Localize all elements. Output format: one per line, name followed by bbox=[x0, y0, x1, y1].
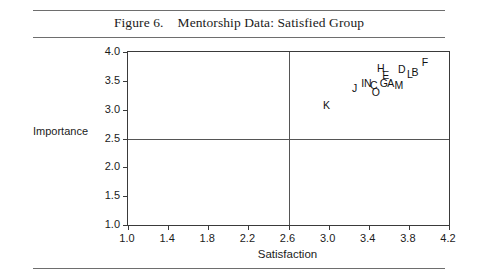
y-axis-tick-label: 4.0 bbox=[105, 45, 120, 57]
figure-bottom-rule bbox=[33, 268, 445, 269]
y-axis-tick bbox=[123, 110, 128, 111]
y-axis-tick bbox=[123, 139, 128, 140]
y-axis-tick-label: 2.5 bbox=[105, 132, 120, 144]
x-axis-tick-label: 1.4 bbox=[159, 232, 174, 244]
data-point-label: O bbox=[372, 87, 380, 98]
x-axis-tick-label: 2.6 bbox=[280, 232, 295, 244]
data-point-label: L bbox=[407, 69, 413, 80]
figure-container: Figure 6.Mentorship Data: Satisfied Grou… bbox=[0, 0, 478, 280]
y-axis-title: Importance bbox=[33, 125, 88, 137]
y-axis-tick-label: 1.5 bbox=[105, 189, 120, 201]
x-axis-title: Satisfaction bbox=[127, 248, 448, 260]
reference-line-vertical bbox=[289, 52, 290, 225]
figure-title: Mentorship Data: Satisfied Group bbox=[178, 15, 365, 30]
y-axis-tick-label: 3.5 bbox=[105, 74, 120, 86]
x-axis-tick-label: 3.0 bbox=[320, 232, 335, 244]
data-point-label: D bbox=[398, 64, 406, 75]
y-tick-label-group: 1.01.52.02.53.03.54.0 bbox=[90, 51, 120, 224]
x-axis-tick-label: 2.2 bbox=[240, 232, 255, 244]
data-point-label: N bbox=[364, 77, 372, 88]
figure-caption: Figure 6.Mentorship Data: Satisfied Grou… bbox=[0, 15, 478, 31]
y-axis-tick bbox=[123, 196, 128, 197]
y-axis-tick bbox=[123, 52, 128, 53]
figure-caption-rule bbox=[33, 37, 445, 38]
plot-area: ABCDEFGHIJKLMNO bbox=[127, 51, 450, 226]
data-point-label: M bbox=[394, 80, 403, 91]
figure-number: Figure 6. bbox=[114, 15, 164, 30]
x-axis-tick-label: 1.8 bbox=[200, 232, 215, 244]
data-point-label: G bbox=[380, 78, 388, 89]
data-point-label: J bbox=[352, 83, 357, 94]
y-axis-tick bbox=[123, 167, 128, 168]
x-tick-label-group: 1.01.41.82.22.63.03.43.84.2 bbox=[127, 224, 448, 244]
x-axis-tick-label: 1.0 bbox=[119, 232, 134, 244]
y-axis-tick-label: 1.0 bbox=[105, 218, 120, 230]
data-point-label: H bbox=[377, 62, 385, 73]
y-axis-tick-label: 3.0 bbox=[105, 103, 120, 115]
y-axis-tick bbox=[123, 81, 128, 82]
x-axis-tick-label: 4.2 bbox=[440, 232, 455, 244]
figure-top-rule bbox=[33, 10, 445, 11]
data-point-label: F bbox=[422, 57, 428, 68]
data-point-label: K bbox=[323, 100, 330, 111]
x-axis-tick bbox=[449, 225, 450, 230]
y-axis-tick-label: 2.0 bbox=[105, 160, 120, 172]
x-axis-tick-label: 3.8 bbox=[400, 232, 415, 244]
x-axis-tick-label: 3.4 bbox=[360, 232, 375, 244]
